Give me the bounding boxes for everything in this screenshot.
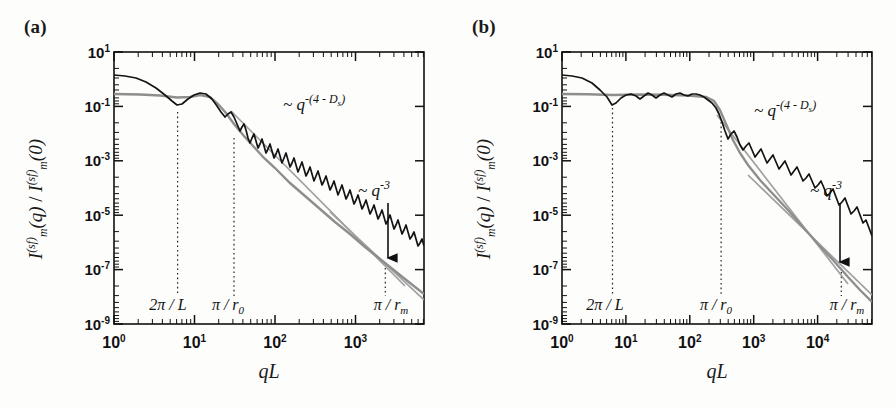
svg-text:10-1: 10-1 xyxy=(84,97,110,115)
svg-text:103: 103 xyxy=(344,333,368,351)
panel-a: (a) I(sf)m(q) / I(sf)m(0) qL xyxy=(0,0,448,409)
svg-text:101: 101 xyxy=(536,43,559,61)
svg-text:10-1: 10-1 xyxy=(532,97,558,115)
annotation-power-law-surface-fractal: ~ q-(4 - Ds) xyxy=(754,98,816,120)
curve-noisy-a xyxy=(114,75,424,246)
svg-text:102: 102 xyxy=(678,333,702,351)
svg-text:104: 104 xyxy=(806,333,830,351)
panel-b: (b) I(sf)m(q) / I(sf)m(0) qL xyxy=(448,0,896,409)
marker-labels: 2π / L π / r0 π / rm xyxy=(149,296,408,316)
svg-text:102: 102 xyxy=(263,333,287,351)
x-axis-tick-labels: 100 101 102 103 xyxy=(102,333,367,351)
svg-text:10-7: 10-7 xyxy=(84,260,110,278)
svg-text:100: 100 xyxy=(550,333,574,351)
svg-text:10-7: 10-7 xyxy=(532,260,558,278)
svg-text:10-5: 10-5 xyxy=(84,206,110,224)
marker-labels: 2π / L π / r0 π / rm xyxy=(586,296,864,316)
curve-noisy-b xyxy=(562,75,872,236)
panel-a-plot: 101 10-1 10-3 10-5 10-7 10-9 xyxy=(0,0,448,409)
svg-text:10-5: 10-5 xyxy=(532,206,558,224)
annotation-power-law-surface-fractal: ~ q-(4 - Ds) xyxy=(283,92,345,114)
x-axis-tick-labels: 100 101 102 103 104 xyxy=(550,333,829,351)
y-axis-tick-labels: 101 10-1 10-3 10-5 10-7 10-9 xyxy=(532,43,558,333)
svg-text:10-9: 10-9 xyxy=(532,315,558,333)
annotation-power-law-q-minus-3: ~ q-3 xyxy=(358,178,390,200)
marker-label-pi-over-r0: π / r0 xyxy=(700,296,733,316)
svg-text:101: 101 xyxy=(88,43,111,61)
x-axis-ticks xyxy=(562,52,818,324)
svg-text:10-3: 10-3 xyxy=(532,151,558,169)
annotation-power-law-q-minus-3: ~ q-3 xyxy=(810,178,842,200)
marker-label-2pi-over-L: 2π / L xyxy=(586,296,623,313)
svg-text:10-9: 10-9 xyxy=(84,315,110,333)
svg-text:10-3: 10-3 xyxy=(84,151,110,169)
svg-text:100: 100 xyxy=(102,333,126,351)
svg-text:103: 103 xyxy=(742,333,766,351)
marker-label-2pi-over-L: 2π / L xyxy=(149,296,186,313)
figure-root: (a) I(sf)m(q) / I(sf)m(0) qL xyxy=(0,0,896,409)
marker-label-pi-over-r0: π / r0 xyxy=(212,296,245,316)
marker-label-pi-over-rm: π / rm xyxy=(374,296,409,316)
panel-b-plot: 101 10-1 10-3 10-5 10-7 10-9 xyxy=(448,0,896,409)
svg-text:101: 101 xyxy=(614,333,638,351)
svg-text:101: 101 xyxy=(183,333,207,351)
y-axis-tick-labels: 101 10-1 10-3 10-5 10-7 10-9 xyxy=(84,43,110,333)
marker-label-pi-over-rm: π / rm xyxy=(830,296,865,316)
